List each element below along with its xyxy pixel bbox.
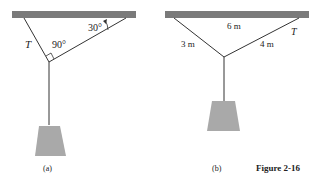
- ceiling-length-label: 6 m: [227, 21, 241, 31]
- ceiling-a: [12, 11, 136, 18]
- panel-a: T 90° 30° (a): [12, 11, 136, 173]
- angle-label-30: 30°: [88, 22, 102, 33]
- ceiling-b: [165, 11, 309, 18]
- tension-label-a: T: [25, 38, 32, 50]
- rope-left-b: [174, 18, 224, 57]
- right-rope-length-label: 4 m: [260, 39, 274, 49]
- figure-caption: Figure 2-16: [256, 163, 301, 173]
- figure-2-16: T 90° 30° (a) 6 m 3 m 4 m T (b) Figure 2…: [0, 0, 322, 180]
- angle-label-90: 90°: [52, 39, 66, 50]
- weight-b: [207, 101, 240, 131]
- panel-b: 6 m 3 m 4 m T (b): [165, 11, 309, 173]
- panel-label-a: (a): [43, 164, 52, 173]
- weight-a: [35, 126, 66, 156]
- tension-label-b: T: [291, 26, 298, 37]
- left-rope-length-label: 3 m: [181, 39, 195, 49]
- panel-label-b: (b): [212, 164, 222, 173]
